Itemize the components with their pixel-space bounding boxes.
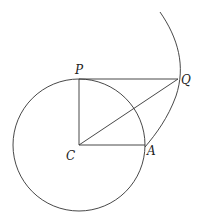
label-A: A: [146, 144, 156, 158]
label-P: P: [74, 63, 84, 77]
label-C: C: [66, 149, 75, 163]
spiral-arc: [145, 12, 180, 147]
segment-CQ: [79, 79, 178, 145]
geometry-diagram: P Q C A: [0, 0, 204, 224]
label-Q: Q: [181, 73, 191, 87]
